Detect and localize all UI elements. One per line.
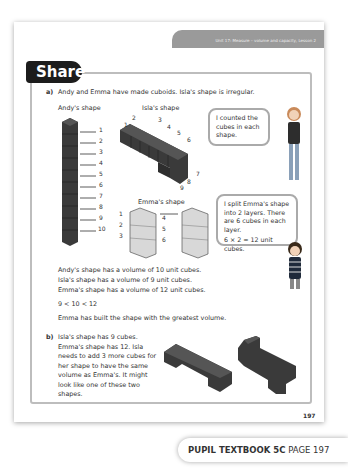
textbook-page-label: PUPIL TEXTBOOK 5C PAGE 197 [178, 438, 348, 462]
boy-speech-bubble: I split Emma's shape into 2 layers. Ther… [216, 194, 298, 246]
emma-num: 2 [119, 221, 123, 228]
andy-num: 10 [98, 225, 106, 232]
boy-bubble-line1: I split Emma's shape into 2 layers. Ther… [224, 200, 290, 234]
girl-character [282, 104, 306, 184]
andy-shape-label: Andy's shape [58, 104, 101, 112]
boy-character [284, 240, 306, 320]
andy-num: 7 [99, 192, 103, 199]
part-b-text: Isla's shape has 9 cubes. Emma's shape h… [58, 333, 158, 400]
isla-num: 3 [158, 116, 162, 123]
statement-emma: Emma's shape has a volume of 12 unit cub… [58, 286, 206, 296]
share-tab: Share [26, 61, 82, 83]
isla-num: 5 [177, 129, 181, 136]
part-a-intro: Andy and Emma have made cuboids. Isla's … [58, 88, 298, 98]
unit-banner: Unit 17: Measure – volume and capacity, … [172, 30, 324, 48]
emma-num: 6 [162, 236, 166, 243]
emma-num: 4 [162, 214, 166, 221]
option-shape-1 [162, 338, 234, 394]
andy-num: 4 [99, 159, 103, 166]
option-shape-2 [236, 336, 300, 396]
statement-andy: Andy's shape has a volume of 10 unit cub… [58, 266, 201, 276]
andy-num: 3 [99, 148, 103, 155]
emma-num: 5 [162, 225, 166, 232]
isla-num: 1 [124, 121, 128, 128]
andy-num: 6 [99, 181, 103, 188]
page-number: 197 [303, 412, 316, 419]
emma-shape-label: Emma's shape [138, 198, 185, 206]
page-label: PAGE 197 [288, 445, 329, 455]
isla-num: 7 [196, 170, 200, 177]
statement-isla: Isla's shape has a volume of 9 unit cube… [58, 276, 192, 286]
isla-num: 2 [132, 114, 136, 121]
boy-bubble-line2: 6 × 2 = 12 unit cubes. [224, 236, 290, 253]
andy-num: 1 [99, 126, 103, 133]
part-b-marker: b) [46, 333, 54, 343]
andy-cube-tower [60, 118, 80, 248]
isla-num: 9 [180, 184, 184, 191]
isla-num: 6 [187, 136, 191, 143]
andy-num: 9 [99, 214, 103, 221]
part-a-marker: a) [46, 88, 53, 98]
andy-num: 2 [99, 137, 103, 144]
andy-arrows [78, 128, 98, 238]
andy-num: 5 [99, 170, 103, 177]
isla-cube-shape [118, 120, 198, 188]
conclusion: Emma has built the shape with the greate… [58, 314, 226, 324]
emma-num: 3 [119, 232, 123, 239]
andy-num: 8 [99, 203, 103, 210]
isla-shape-label: Isla's shape [142, 104, 179, 112]
emma-cuboid-layers [126, 208, 212, 258]
comparison: 9 < 10 < 12 [58, 300, 97, 310]
girl-speech-bubble: I counted the cubes in each shape. [208, 108, 270, 146]
book-title: PUPIL TEXTBOOK 5C [188, 445, 285, 455]
isla-num: 8 [187, 178, 191, 185]
emma-num: 1 [119, 210, 123, 217]
isla-num: 4 [167, 123, 171, 130]
